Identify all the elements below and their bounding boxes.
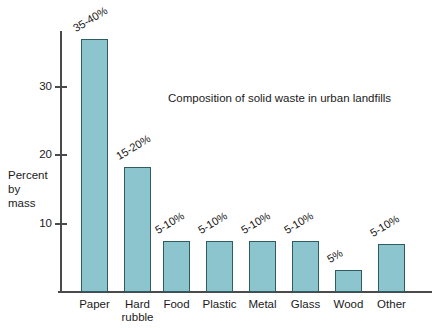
bar-food [163, 241, 190, 292]
bar-value-label: 5-10% [368, 212, 401, 239]
y-axis-tick-label-wrap: 10 [0, 218, 52, 230]
y-axis-title-line-2: by [8, 182, 48, 196]
bar-value-label: 35-40% [71, 4, 110, 34]
bar-value-label: 5-10% [282, 209, 315, 236]
bar-metal [249, 241, 276, 292]
y-axis-tick [55, 223, 67, 225]
chart-title: Composition of solid waste in urban land… [168, 92, 391, 104]
y-axis-tick-label: 20 [30, 149, 52, 161]
bar-hard-rubble [124, 167, 151, 292]
y-axis-title-line-3: mass [8, 196, 48, 210]
y-axis-title: Percent by mass [8, 168, 48, 210]
bar-value-label: 15-20% [114, 133, 153, 163]
x-axis-line [58, 291, 432, 293]
y-axis-tick-label: 10 [30, 218, 52, 230]
x-axis-category-label: Other [364, 298, 420, 311]
y-axis-tick-label: 30 [30, 81, 52, 93]
bar-value-label: 5-10% [239, 209, 272, 236]
y-axis-tick [55, 86, 67, 88]
bar-paper [81, 39, 108, 292]
bar-glass [292, 241, 319, 292]
y-axis-title-line-1: Percent [8, 168, 48, 182]
bar-wood [335, 270, 362, 292]
y-axis-tick [55, 154, 67, 156]
y-axis-tick-label-wrap: 30 [0, 81, 52, 93]
bar-value-label: 5% [325, 247, 345, 265]
bar-value-label: 5-10% [153, 209, 186, 236]
y-axis-line [60, 31, 62, 293]
bar-chart: 102030 Percent by mass Composition of so… [0, 0, 437, 328]
bar-value-label: 5-10% [196, 209, 229, 236]
bar-other [378, 244, 405, 292]
y-axis-tick-label-wrap: 20 [0, 149, 52, 161]
bar-plastic [206, 241, 233, 292]
